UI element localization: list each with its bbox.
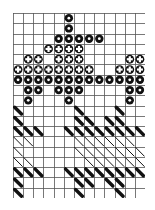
chart-cell-black-dot (85, 34, 93, 42)
chart-cell-cross-dot (85, 65, 94, 74)
chart-cell-black-dot (95, 76, 103, 84)
chart-cell-black-dot (34, 76, 42, 84)
chart-cell-cross-dot (54, 55, 63, 64)
chart-cell-cross-dot (14, 65, 23, 74)
chart-cell-black-dot (54, 34, 62, 42)
chart-cell-black-dot (136, 76, 144, 84)
chart-cell-cross-dot (136, 55, 145, 64)
chart-cell-black-dot (14, 76, 22, 84)
chart-cell-black-dot (54, 76, 62, 84)
chart-cell-black-dot (126, 96, 134, 104)
chart-cell-cross-dot (54, 65, 63, 74)
chart-cell-black-dot (95, 34, 103, 42)
chart-cell-cross-dot (125, 65, 134, 74)
chart-cell-black-dot (126, 76, 134, 84)
chart-cell-black-dot (75, 76, 83, 84)
chart-cell-cross-dot (44, 45, 53, 54)
chart-cell-cross-dot (125, 55, 134, 64)
chart-cell-cross-dot (64, 55, 73, 64)
chart-grid (13, 13, 145, 198)
chart-cell-black-dot (65, 34, 73, 42)
chart-cell-cross-dot (75, 65, 84, 74)
chart-cell-cross-dot (136, 65, 145, 74)
knitting-chart (13, 13, 145, 198)
chart-cell-cross-dot (44, 65, 53, 74)
chart-cell-black-dot (65, 14, 73, 22)
chart-cell-black-dot (24, 96, 32, 104)
chart-cell-cross-dot (64, 45, 73, 54)
chart-cell-black-dot (105, 76, 113, 84)
chart-cell-cross-dot (34, 55, 43, 64)
chart-cell-cross-dot (75, 55, 84, 64)
chart-cell-black-dot (44, 76, 52, 84)
chart-cell-black-dot (126, 86, 134, 94)
chart-cell-black-dot (24, 76, 32, 84)
chart-cell-black-dot (85, 76, 93, 84)
chart-cell-black-dot (65, 86, 73, 94)
chart-cell-cross-dot (64, 65, 73, 74)
chart-cell-cross-dot (115, 65, 124, 74)
chart-cell-black-dot (75, 86, 83, 94)
chart-cell-cross-dot (24, 65, 33, 74)
chart-cell-black-dot (136, 86, 144, 94)
chart-cell-cross-dot (75, 45, 84, 54)
chart-cell-black-dot (34, 86, 42, 94)
chart-cell-black-dot (115, 76, 123, 84)
chart-cell-black-dot (75, 34, 83, 42)
chart-cell-cross-dot (24, 55, 33, 64)
chart-cell-cross-dot (34, 65, 43, 74)
chart-cell-cross-dot (54, 45, 63, 54)
chart-cell-black-dot (54, 86, 62, 94)
chart-cell-black-dot (65, 24, 73, 32)
chart-cell-black-dot (24, 86, 32, 94)
chart-cell-black-dot (65, 96, 73, 104)
chart-cell-black-dot (65, 76, 73, 84)
